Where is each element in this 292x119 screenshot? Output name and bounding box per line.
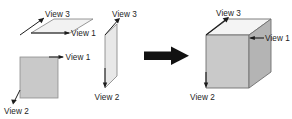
cube-view3-label: View 3 xyxy=(216,9,241,18)
front-face-view2-arrowhead xyxy=(11,100,17,105)
transform-arrow-head xyxy=(171,47,189,66)
side-face-view2-label: View 2 xyxy=(95,93,120,102)
diagram-canvas: View 3 View 1 View 1 View 2 View 3 View … xyxy=(0,0,292,119)
cube-front-face xyxy=(206,35,249,88)
front-face-view2-label: View 2 xyxy=(4,107,29,116)
transform-arrow xyxy=(144,47,189,66)
front-face-view1-arrowhead xyxy=(59,55,65,59)
assembled-cube-group: View 3 View 1 View 2 xyxy=(190,9,290,102)
top-face-view3-label: View 3 xyxy=(45,10,70,19)
top-face-view1-label: View 1 xyxy=(71,29,96,38)
top-face-group: View 3 View 1 xyxy=(20,10,96,39)
transform-arrow-shaft xyxy=(144,52,175,61)
top-face-view3-arrowhead xyxy=(38,18,44,23)
cube-view2-label: View 2 xyxy=(190,93,215,102)
front-face-view1-label: View 1 xyxy=(66,53,91,62)
front-face-group: View 1 View 2 xyxy=(4,53,91,116)
side-face-view3-arrowhead xyxy=(114,18,120,23)
cube-view1-label: View 1 xyxy=(265,34,290,43)
side-face-view3-label: View 3 xyxy=(112,10,137,19)
front-square-shape xyxy=(20,57,58,98)
